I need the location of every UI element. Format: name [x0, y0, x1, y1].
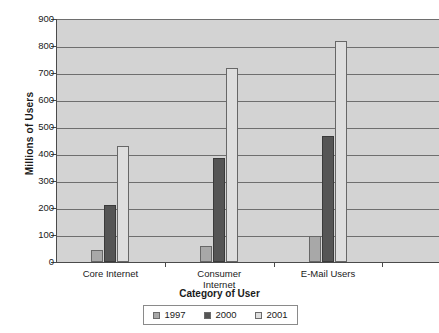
y-axis-tick-label: 200	[14, 203, 54, 212]
bar-2001-consumer-internet	[226, 68, 238, 262]
y-axis-tick-label: 300	[14, 176, 54, 185]
x-axis-category-label: Core Internet	[50, 268, 170, 279]
y-axis-tick-label: 900	[14, 14, 54, 23]
y-axis-line	[56, 19, 57, 263]
gridline	[56, 128, 439, 129]
x-axis-tick	[382, 262, 383, 267]
bar-chart: Millions of Users Category of User 1997 …	[0, 0, 439, 333]
x-axis-tick	[274, 262, 275, 267]
legend-swatch-1997	[153, 312, 160, 319]
bar-2001-e-mail-users	[335, 41, 347, 262]
gridline	[56, 47, 439, 48]
chart-legend: 1997 2000 2001	[143, 305, 298, 325]
plot-area	[56, 19, 439, 262]
y-axis-tick-label: 400	[14, 149, 54, 158]
y-axis-tick-label: 500	[14, 122, 54, 131]
gridline	[56, 182, 439, 183]
bar-1997-core-internet	[91, 250, 103, 262]
bar-2000-consumer-internet	[213, 158, 225, 262]
legend-label-2000: 2000	[215, 310, 236, 320]
bar-1997-consumer-internet	[200, 246, 212, 262]
gridline	[56, 101, 439, 102]
bar-2000-core-internet	[104, 205, 116, 262]
y-axis-tick-label: 600	[14, 95, 54, 104]
bar-2000-e-mail-users	[322, 136, 334, 262]
legend-swatch-2001	[255, 312, 262, 319]
y-axis-tick-label: 0	[14, 257, 54, 266]
legend-item: 2001	[255, 310, 287, 320]
x-axis-tick	[165, 262, 166, 267]
bar-1997-e-mail-users	[309, 236, 321, 262]
legend-swatch-2000	[204, 312, 211, 319]
y-axis-tick-label: 700	[14, 68, 54, 77]
legend-item: 1997	[153, 310, 185, 320]
y-axis-tick-label: 800	[14, 41, 54, 50]
legend-label-1997: 1997	[164, 310, 185, 320]
legend-label-2001: 2001	[266, 310, 287, 320]
gridline	[56, 155, 439, 156]
legend-item: 2000	[204, 310, 236, 320]
x-axis-category-label: E-Mail Users	[268, 268, 388, 279]
x-axis-category-label: Consumer Internet	[159, 268, 279, 290]
y-axis-tick-label: 100	[14, 230, 54, 239]
bar-2001-core-internet	[117, 146, 129, 262]
gridline	[56, 74, 439, 75]
